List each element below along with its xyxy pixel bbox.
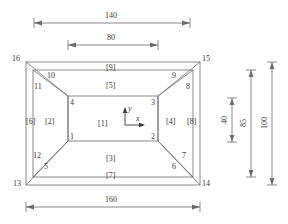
dim-label-40: 40 [221,116,229,124]
inner-rectangle [68,96,158,141]
dim-160-arrow-right [192,205,200,210]
diagram-canvas: 140 80 160 40 85 100 y x [1] [2] [3] [4]… [0,0,288,224]
node-label-7: 7 [182,152,186,160]
node-label-8: 8 [186,83,190,91]
axis-label-y: y [128,105,132,113]
dim-85-arrow-bottom [249,170,254,177]
dim-140-arrow-right [182,21,190,26]
dim-label-80: 80 [107,34,115,42]
dim-85-arrow-top [249,70,254,77]
node-label-10: 10 [47,72,55,80]
region-label-6: [6] [26,118,35,126]
node-label-4: 4 [70,99,74,107]
region-label-3: [3] [106,155,115,163]
dim-label-100: 100 [261,117,269,129]
axis-y-arrowhead [123,107,127,113]
region-label-9: [9] [106,64,115,72]
dim-label-140: 140 [105,12,117,20]
dim-40-arrow-top [230,98,235,105]
dim-140-arrow-left [34,21,42,26]
node-label-3: 3 [151,99,155,107]
axis-label-x: x [136,115,140,123]
dim-label-160: 160 [105,196,117,204]
region-label-1: [1] [98,120,107,128]
dim-label-85: 85 [240,119,248,127]
region-label-4: [4] [166,118,175,126]
node-label-13: 13 [13,180,21,188]
node-label-15: 15 [202,55,210,63]
node-label-16: 16 [12,55,20,63]
dim-160-arrow-left [26,205,34,210]
region-label-2: [2] [45,118,54,126]
diagonal-strip-br-to-2 [158,141,193,177]
node-label-2: 2 [151,133,155,141]
node-label-6: 6 [172,163,176,171]
axis-x-arrowhead [139,123,145,127]
dim-100-arrow-bottom [270,178,275,185]
region-label-5: [5] [106,82,115,90]
dim-100-arrow-top [270,62,275,69]
dim-80-arrow-left [68,43,76,48]
node-label-1: 1 [70,133,74,141]
node-label-12: 12 [33,152,41,160]
region-label-7: [7] [106,172,115,180]
node-label-14: 14 [202,180,210,188]
node-label-5: 5 [44,163,48,171]
node-label-9: 9 [172,72,176,80]
region-label-8: [8] [187,118,196,126]
node-label-11: 11 [34,83,42,91]
dim-40-arrow-bottom [230,135,235,142]
diagram-svg [0,0,288,224]
dim-80-arrow-right [150,43,158,48]
